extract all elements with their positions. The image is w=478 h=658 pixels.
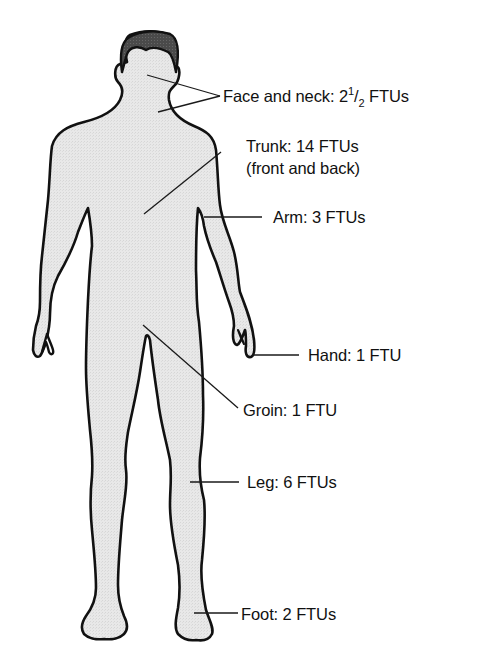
label-hand: Hand: 1 FTU (308, 345, 401, 365)
label-face-and-neck: Face and neck: 21/2 FTUs (223, 86, 409, 106)
label-foot: Foot: 2 FTUs (241, 604, 336, 624)
foot-text: Foot: 2 FTUs (241, 605, 336, 623)
label-groin: Groin: 1 FTU (243, 400, 337, 420)
arm-text: Arm: 3 FTUs (273, 208, 365, 226)
body-silhouette (33, 31, 254, 640)
face-neck-prefix: Face and neck: 2 (223, 87, 348, 105)
trunk-line1: Trunk: 14 FTUs (246, 136, 360, 156)
trunk-line2: (front and back) (246, 158, 360, 178)
face-neck-fraction-denominator: 2 (359, 97, 365, 109)
leg-text: Leg: 6 FTUs (247, 473, 337, 491)
face-neck-fraction-numerator: 1 (348, 85, 354, 97)
hand-text: Hand: 1 FTU (308, 346, 401, 364)
face-neck-suffix: FTUs (365, 87, 409, 105)
groin-text: Groin: 1 FTU (243, 401, 337, 419)
face-neck-fraction-slash: / (354, 87, 358, 105)
label-arm: Arm: 3 FTUs (273, 207, 365, 227)
label-trunk: Trunk: 14 FTUs (front and back) (246, 136, 360, 178)
label-leg: Leg: 6 FTUs (247, 472, 337, 492)
